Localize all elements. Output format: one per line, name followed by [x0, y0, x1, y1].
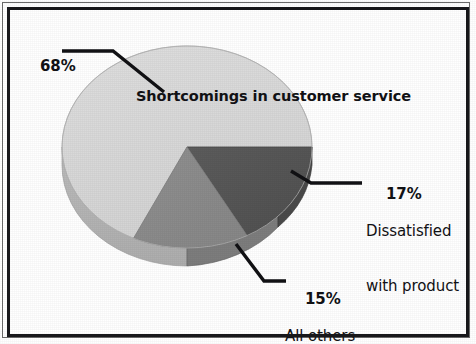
slice-label-shortcomings-category: Shortcomings in customer service — [136, 88, 411, 105]
percent-value-17: 17% — [386, 185, 422, 203]
slice-label-shortcomings-percent: 68% — [20, 38, 76, 95]
pie-chart-figure: 68% Shortcomings in customer service 17%… — [0, 0, 476, 344]
category-line-dissatisfied-2: with product — [366, 278, 459, 296]
category-line-dissatisfied-1: Dissatisfied — [366, 223, 459, 241]
percent-value-68: 68% — [40, 57, 76, 75]
percent-value-15: 15% — [305, 290, 341, 308]
category-line-all-others: All others — [285, 328, 355, 344]
slice-label-all-others: 15% All others — [285, 271, 355, 344]
slice-label-dissatisfied: 17% Dissatisfied with product — [366, 166, 459, 334]
